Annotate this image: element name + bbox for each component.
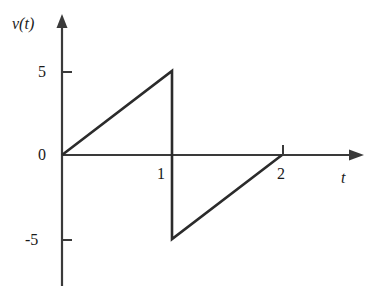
waveform-figure: v(t) t 5 0 -5 1 2 xyxy=(0,0,380,296)
y-tick-label-neg5: -5 xyxy=(25,232,38,248)
y-tick-label-5: 5 xyxy=(38,64,46,80)
plot-canvas xyxy=(0,0,380,296)
x-axis-label: t xyxy=(341,170,345,186)
x-tick-label-1: 1 xyxy=(157,166,165,182)
y-tick-label-0: 0 xyxy=(38,147,46,163)
x-tick-label-2: 2 xyxy=(277,166,285,182)
x-axis-arrowhead xyxy=(349,150,364,161)
y-axis-arrowhead xyxy=(57,14,68,28)
y-axis-label: v(t) xyxy=(12,16,34,32)
